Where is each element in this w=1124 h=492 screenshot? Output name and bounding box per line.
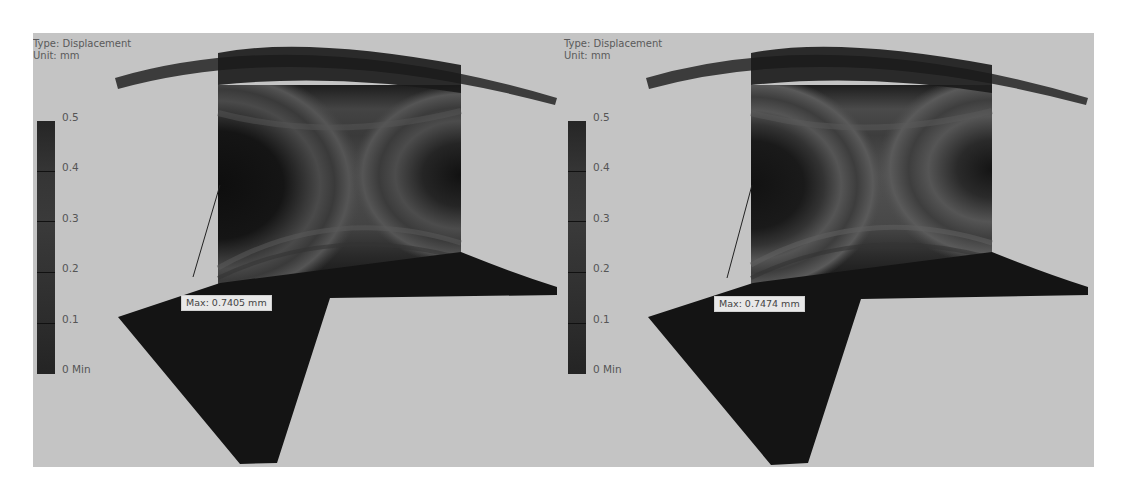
max-value-label[interactable]: Max: 0.7405 mm xyxy=(181,295,272,311)
max-value-label[interactable]: Max: 0.7474 mm xyxy=(714,296,805,312)
result-panel-right[interactable]: Type: Displacement Unit: mm 0.5 0.4 0.3 … xyxy=(564,33,1094,467)
bottom-plate xyxy=(118,252,557,464)
result-panel-left[interactable]: Type: Displacement Unit: mm 0.5 0.4 0.3 … xyxy=(33,33,564,467)
bottom-plate xyxy=(648,252,1088,465)
web-plate xyxy=(218,85,461,285)
web-plate xyxy=(751,85,992,285)
fea-results-viewport[interactable]: Type: Displacement Unit: mm 0.5 0.4 0.3 … xyxy=(33,33,1094,467)
max-leader-line xyxy=(193,185,220,277)
displacement-model[interactable] xyxy=(564,33,1094,467)
max-leader-line xyxy=(727,185,752,278)
displacement-model[interactable] xyxy=(33,33,564,467)
